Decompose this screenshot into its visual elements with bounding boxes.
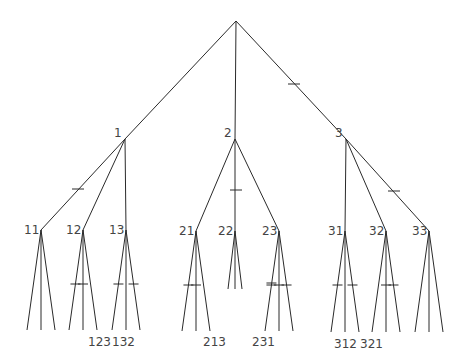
edge-1-11 xyxy=(41,139,125,230)
node-label-31: 31 xyxy=(328,225,343,237)
edge-2-21 xyxy=(196,139,235,231)
node-label-21: 21 xyxy=(179,225,194,237)
node-label-32: 32 xyxy=(369,225,384,237)
leaf-edge-331 xyxy=(415,231,429,332)
node-label-3: 3 xyxy=(335,127,343,139)
leaf-edge-223 xyxy=(235,231,242,289)
leaf-label-231: 231 xyxy=(252,336,275,348)
leaf-edge-113 xyxy=(41,230,55,330)
leaf-edge-211 xyxy=(182,231,196,331)
node-label-2: 2 xyxy=(224,127,232,139)
node-label-12: 12 xyxy=(66,224,81,236)
edge-root-1 xyxy=(125,21,236,139)
edge-root-2 xyxy=(235,21,236,139)
tree-diagram: 123111213212223313233123132213231312321 xyxy=(0,0,469,364)
leaf-edge-111 xyxy=(27,230,41,330)
leaf-edge-123 xyxy=(83,230,97,330)
node-label-23: 23 xyxy=(262,225,277,237)
tree-edges xyxy=(0,0,469,364)
node-label-1: 1 xyxy=(114,127,122,139)
node-label-11: 11 xyxy=(24,224,39,236)
leaf-edge-311 xyxy=(331,231,345,332)
node-label-33: 33 xyxy=(412,225,427,237)
leaf-edge-231 xyxy=(265,231,279,331)
leaf-label-132: 132 xyxy=(112,336,135,348)
leaf-edge-233 xyxy=(279,231,293,331)
edge-3-31 xyxy=(345,139,346,231)
leaf-label-213: 213 xyxy=(203,336,226,348)
leaf-edge-333 xyxy=(429,231,443,332)
leaf-edge-133 xyxy=(126,230,140,330)
leaf-label-312: 312 xyxy=(334,338,357,350)
leaf-label-123: 123 xyxy=(88,336,111,348)
leaf-edge-131 xyxy=(112,230,126,330)
leaf-label-321: 321 xyxy=(360,338,383,350)
leaf-edge-213 xyxy=(196,231,210,331)
leaf-edge-323 xyxy=(386,231,400,332)
edge-3-32 xyxy=(346,139,386,231)
leaf-edge-321 xyxy=(372,231,386,332)
edge-3-33 xyxy=(346,139,429,231)
edge-2-23 xyxy=(235,139,279,231)
leaf-edge-221 xyxy=(228,231,235,289)
leaf-edge-313 xyxy=(345,231,359,332)
edge-root-3 xyxy=(236,21,346,139)
edge-1-13 xyxy=(125,139,126,230)
node-label-22: 22 xyxy=(218,225,233,237)
node-label-13: 13 xyxy=(109,224,124,236)
edge-1-12 xyxy=(83,139,125,230)
leaf-edge-121 xyxy=(69,230,83,330)
